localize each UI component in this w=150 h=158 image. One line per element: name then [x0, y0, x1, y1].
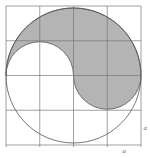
- diagram-canvas: a a: [0, 0, 150, 158]
- label-side-bottom: a: [123, 147, 127, 154]
- label-side-right: a: [144, 124, 148, 131]
